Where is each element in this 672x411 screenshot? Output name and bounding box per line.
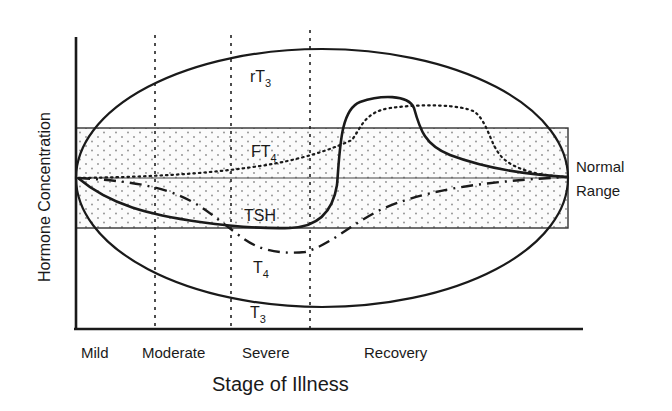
- label-tsh: TSH: [244, 207, 276, 224]
- stage-label-moderate: Moderate: [142, 344, 205, 361]
- thyroid-hormone-diagram: rT3 FT4 TSH T4 T3 Normal Range Mild Mode…: [0, 0, 672, 411]
- label-t4: T4: [253, 259, 269, 280]
- stage-label-recovery: Recovery: [364, 344, 428, 361]
- stage-label-severe: Severe: [242, 344, 290, 361]
- normal-range-label-line2: Range: [576, 182, 620, 199]
- y-axis-title: Hormone Concentration: [36, 112, 53, 282]
- normal-range-label-line1: Normal: [576, 158, 624, 175]
- stage-label-mild: Mild: [81, 344, 109, 361]
- x-axis-title: Stage of Illness: [212, 373, 349, 395]
- label-rt3: rT3: [250, 68, 271, 89]
- label-t3: T3: [250, 304, 266, 325]
